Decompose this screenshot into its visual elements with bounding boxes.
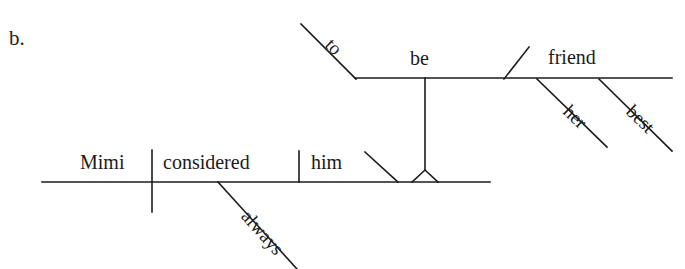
pedestal-triangle — [412, 170, 438, 182]
word-verb-be: be — [410, 48, 429, 68]
sentence-diagram-figure: b. Mimi considered him be friend to alwa… — [0, 0, 685, 269]
word-verb-considered: considered — [163, 152, 250, 172]
object-complement-slant-line — [365, 152, 398, 182]
exercise-label: b. — [9, 26, 25, 51]
word-subject-mimi: Mimi — [80, 152, 124, 172]
word-complement-friend: friend — [548, 47, 596, 67]
word-direct-object-him: him — [311, 152, 342, 172]
upper-complement-slant-line — [504, 47, 529, 79]
